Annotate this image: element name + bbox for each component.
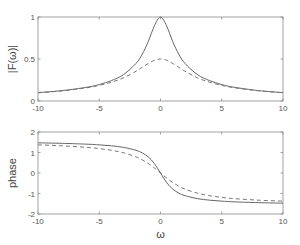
y-tick-label: 0 <box>31 97 36 106</box>
phase-plot: -10-50510-2-1012phaseω <box>6 128 288 240</box>
x-tick-label: -5 <box>96 217 104 226</box>
magnitude-solid-line <box>38 17 283 93</box>
y-tick-label: 1 <box>31 149 36 158</box>
magnitude-ylabel: |F(ω)| <box>6 45 18 73</box>
y-tick-label: 0 <box>31 169 36 178</box>
x-tick-label: 10 <box>279 217 288 226</box>
y-tick-label: 2 <box>31 128 36 137</box>
chart-canvas: -10-5051000.51|F(ω)| -10-50510-2-1012pha… <box>0 0 300 245</box>
x-tick-label: -5 <box>96 104 104 113</box>
y-tick-label: 0.5 <box>24 55 36 64</box>
y-tick-label: -1 <box>28 190 36 199</box>
x-tick-label: 5 <box>220 217 225 226</box>
phase-ylabel: phase <box>6 158 18 188</box>
x-tick-label: 10 <box>279 104 288 113</box>
phase-xlabel: ω <box>156 228 165 240</box>
y-tick-label: 1 <box>31 13 36 22</box>
magnitude-dashed-line <box>38 59 283 93</box>
phase-dashed-line <box>38 145 283 201</box>
x-tick-label: 0 <box>158 217 163 226</box>
x-tick-label: 5 <box>220 104 225 113</box>
x-tick-label: 0 <box>158 104 163 113</box>
y-tick-label: -2 <box>28 210 36 219</box>
magnitude-plot: -10-5051000.51|F(ω)| <box>6 13 288 113</box>
